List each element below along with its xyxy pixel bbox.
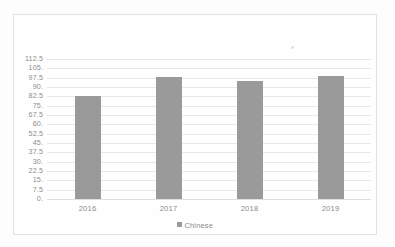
y-axis-tick-label: 37.5	[29, 149, 43, 156]
x-axis: 2016201720182019	[47, 202, 371, 218]
y-axis-tick-label: 112.5	[25, 55, 43, 62]
y-axis-tick-label: 7.5	[33, 186, 43, 193]
x-axis-tick-label: 2019	[322, 204, 340, 213]
gridline	[47, 68, 371, 69]
scan-artifact-speck	[291, 46, 294, 49]
x-axis-tick-label: 2017	[160, 204, 178, 213]
y-axis-tick-label: 30.	[33, 158, 43, 165]
y-axis-tick-label: 60.	[33, 121, 43, 128]
bar-2018[interactable]	[237, 81, 263, 199]
y-axis-tick-label: 22.5	[29, 167, 43, 174]
y-axis-tick-label: 90.	[33, 83, 43, 90]
square-swatch-icon	[177, 222, 182, 227]
x-axis-tick-label: 2016	[79, 204, 97, 213]
gridline	[47, 59, 371, 60]
y-axis-tick-label: 0.	[37, 195, 43, 202]
y-axis-tick-label: 75.	[33, 102, 43, 109]
y-axis-tick-label: 105.	[29, 65, 43, 72]
plot-area	[47, 59, 371, 199]
chart-legend: Chinese	[14, 220, 376, 230]
y-axis-tick-label: 15.	[33, 177, 43, 184]
bar-2019[interactable]	[318, 76, 344, 199]
bar-2017[interactable]	[156, 77, 182, 199]
y-axis-tick-label: 52.5	[29, 130, 43, 137]
scanned-page-background: 112.5105.97.590.82.575.67.560.52.545.37.…	[0, 0, 395, 247]
chart-frame: 112.5105.97.590.82.575.67.560.52.545.37.…	[13, 14, 377, 235]
x-axis-tick-label: 2018	[241, 204, 259, 213]
y-axis-tick-label: 82.5	[29, 93, 43, 100]
axis-baseline	[47, 199, 371, 200]
legend-label-chinese: Chinese	[184, 221, 213, 230]
y-axis-tick-label: 67.5	[29, 111, 43, 118]
y-axis-tick-label: 45.	[33, 139, 43, 146]
bar-2016[interactable]	[75, 96, 101, 199]
y-axis: 112.5105.97.590.82.575.67.560.52.545.37.…	[14, 59, 45, 199]
y-axis-tick-label: 97.5	[29, 74, 43, 81]
